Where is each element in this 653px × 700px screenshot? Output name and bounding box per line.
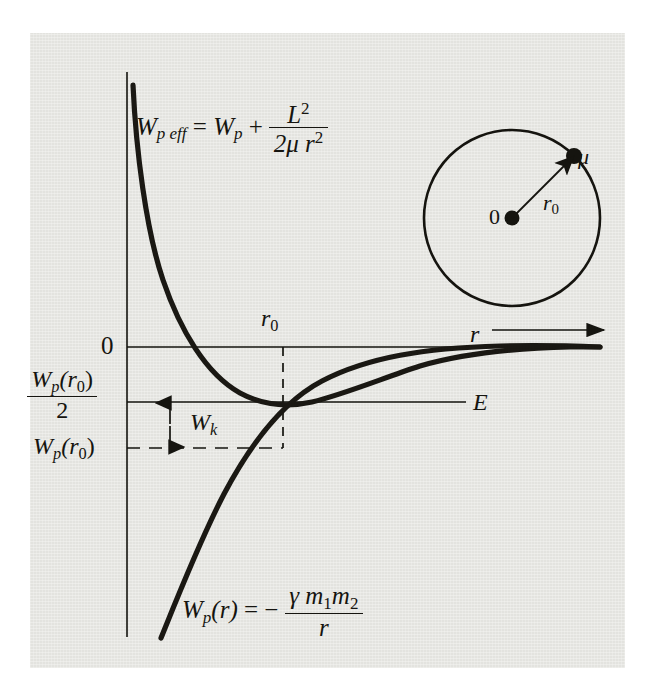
half-potential-numerator: Wp(r0) xyxy=(27,367,97,397)
kinetic-energy-label: Wk xyxy=(190,410,217,438)
inset-radius-line xyxy=(512,158,572,218)
formula-wp-equals: = xyxy=(244,596,258,623)
half-potential-denominator: 2 xyxy=(27,397,97,422)
min-potential-label: Wp(r0) xyxy=(33,434,95,462)
wk-symbol: W xyxy=(190,409,210,435)
half-potential-fraction: Wp(r0) 2 xyxy=(27,367,97,422)
y-axis-zero-label: 0 xyxy=(101,333,114,358)
wk-sub: k xyxy=(210,420,217,439)
half-num-symbol: W xyxy=(31,366,51,392)
formula-effective-potential: Wp eff = Wp + L2 2μ r2 xyxy=(136,101,328,157)
formula-eff-equals: = xyxy=(193,113,207,140)
inset-radius-label: r0 xyxy=(543,192,559,217)
inset-radius-sub: 0 xyxy=(552,201,559,217)
formula-eff-term1-sub: p xyxy=(234,124,243,143)
formula-eff-denominator: 2μ r2 xyxy=(269,128,328,156)
min-pot-arg-close: ) xyxy=(87,433,95,459)
formula-wp-num-sub1: 1 xyxy=(323,594,332,613)
formula-eff-den-exp: 2 xyxy=(315,128,324,147)
half-num-arg: (r xyxy=(59,366,76,392)
formula-wp-num-symbol2: m xyxy=(332,582,350,609)
figure-root: Wp eff = Wp + L2 2μ r2 Wp(r) = − γ m1m2 … xyxy=(0,0,653,700)
min-pot-arg-sub: 0 xyxy=(79,444,87,463)
inset-radius-symbol: r xyxy=(543,190,552,215)
formula-wp-num-symbol1: γ m xyxy=(289,582,323,609)
formula-eff-fraction: L2 2μ r2 xyxy=(269,100,328,156)
formula-eff-numerator: L2 xyxy=(269,100,328,129)
formula-wp-numerator: γ m1m2 xyxy=(285,583,363,614)
formula-potential-energy: Wp(r) = − γ m1m2 r xyxy=(182,584,363,641)
min-pot-arg: (r xyxy=(61,433,78,459)
formula-eff-num-symbol: L xyxy=(287,100,301,127)
energy-line-label: E xyxy=(473,390,488,414)
formula-wp-num-sub2: 2 xyxy=(350,594,359,613)
formula-wp-lhs: W xyxy=(182,596,203,623)
min-pot-sub: p xyxy=(53,444,61,463)
r0-tick-sub: 0 xyxy=(270,316,278,335)
formula-eff-term1: W xyxy=(213,113,234,140)
r0-tick-symbol: r xyxy=(261,305,270,331)
half-num-arg-close: ) xyxy=(85,366,93,392)
half-num-arg-sub: 0 xyxy=(77,376,85,395)
formula-eff-num-exp: 2 xyxy=(301,99,310,118)
inset-body-label: μ xyxy=(578,146,589,168)
formula-wp-fraction: γ m1m2 r xyxy=(285,583,363,640)
r0-tick-label: r0 xyxy=(261,306,279,334)
half-potential-label: Wp(r0) 2 xyxy=(27,368,97,423)
formula-eff-lhs-sub: p eff xyxy=(157,124,187,143)
formula-wp-minus: − xyxy=(264,596,278,623)
formula-eff-plus: + xyxy=(249,113,263,140)
formula-wp-denominator: r xyxy=(285,614,363,640)
formula-eff-lhs: W xyxy=(136,113,157,140)
min-pot-symbol: W xyxy=(33,433,53,459)
formula-eff-den-symbol: 2μ r xyxy=(274,130,315,157)
x-axis-label: r xyxy=(470,322,479,346)
formula-wp-lhs-arg: (r) xyxy=(211,596,237,623)
inset-center-label: 0 xyxy=(489,206,500,228)
